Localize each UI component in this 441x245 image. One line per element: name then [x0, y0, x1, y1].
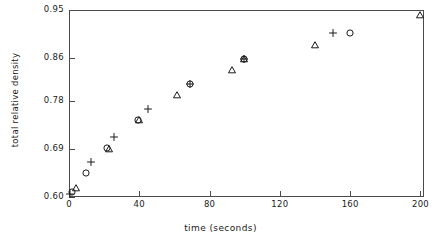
plot-area: [69, 10, 424, 197]
x-axis-tick: [69, 191, 70, 197]
scatter-plot-figure: 0.600.690.780.860.9504080120160200 time …: [0, 0, 441, 245]
x-axis-tick-label: 40: [134, 200, 145, 209]
x-axis-tick-label: 160: [342, 200, 359, 209]
x-axis-tick: [210, 191, 211, 197]
x-axis-tick: [350, 191, 351, 197]
y-axis-tick: [69, 149, 75, 150]
y-axis-tick-label: 0.60: [44, 192, 64, 201]
y-axis-tick: [69, 10, 75, 11]
x-axis-tick-label: 80: [204, 200, 215, 209]
y-axis-tick-label: 0.86: [44, 53, 64, 62]
y-axis-title: total relative density: [10, 35, 20, 165]
y-axis-tick: [69, 101, 75, 102]
y-axis-tick-label: 0.69: [44, 144, 64, 153]
y-axis-tick-label: 0.78: [44, 96, 64, 105]
x-axis-tick: [280, 191, 281, 197]
x-axis-tick-label: 120: [271, 200, 288, 209]
x-axis-tick: [420, 191, 421, 197]
x-axis-title: time (seconds): [0, 223, 441, 233]
y-axis-tick: [69, 197, 75, 198]
x-axis-tick: [139, 191, 140, 197]
x-axis-tick-label: 200: [412, 200, 429, 209]
y-axis-tick-label: 0.95: [44, 5, 64, 14]
y-axis-tick: [69, 58, 75, 59]
x-axis-tick-label: 0: [66, 200, 72, 209]
